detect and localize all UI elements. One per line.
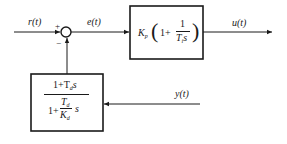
minus-sign: − bbox=[56, 39, 61, 48]
close-paren: ) bbox=[192, 20, 199, 42]
error-signal-label: e(t) bbox=[87, 17, 101, 27]
output-signal-label: u(t) bbox=[232, 18, 246, 28]
gain-symbol: Kp bbox=[138, 28, 148, 39]
input-signal-label: r(t) bbox=[28, 17, 41, 27]
den-s: s bbox=[75, 104, 79, 114]
summing-junction bbox=[61, 27, 71, 37]
plus-sign: + bbox=[55, 22, 60, 31]
feedback-numerator: 1+Tds bbox=[53, 80, 77, 91]
den-one-plus: 1+ bbox=[48, 106, 59, 116]
inner-fraction-numerator: Td bbox=[61, 97, 70, 108]
fraction-numerator: 1 bbox=[180, 19, 185, 29]
open-paren: ( bbox=[151, 20, 158, 42]
feedback-signal-label: y(t) bbox=[175, 89, 189, 99]
fraction-denominator: Tis bbox=[176, 33, 187, 44]
inner-fraction-denominator: Kd bbox=[60, 110, 70, 121]
one-plus: 1+ bbox=[160, 28, 171, 38]
main-fraction-bar bbox=[44, 94, 89, 95]
